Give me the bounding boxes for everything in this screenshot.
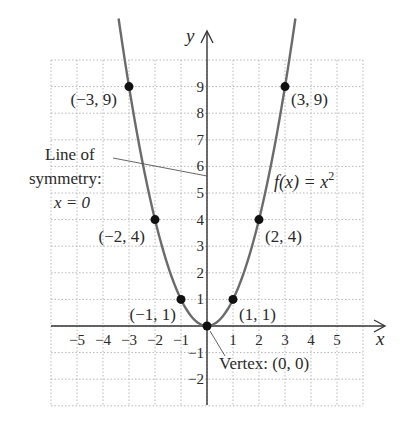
- symmetry-label-line2: symmetry:: [29, 169, 102, 188]
- point-label: (−2, 4): [99, 227, 145, 246]
- point-label: (2, 4): [265, 227, 302, 246]
- symmetry-label-line3: x = 0: [53, 193, 91, 212]
- data-point: [177, 295, 186, 304]
- y-axis-label: y: [184, 25, 195, 46]
- data-point: [151, 215, 160, 224]
- y-tick-label: 7: [197, 132, 205, 148]
- y-tick-label: 8: [197, 105, 205, 121]
- point-label: (−3, 9): [71, 90, 117, 109]
- data-point: [255, 215, 264, 224]
- y-tick-label: 2: [197, 265, 205, 281]
- x-tick-label: −2: [147, 332, 163, 348]
- data-point: [125, 82, 134, 91]
- data-point: [203, 322, 212, 331]
- vertex-label: Vertex: (0, 0): [219, 354, 309, 373]
- point-label: (−1, 1): [130, 305, 176, 324]
- x-tick-label: −1: [173, 332, 189, 348]
- data-point: [229, 295, 238, 304]
- y-tick-label: 3: [197, 238, 205, 254]
- point-labels: (−3, 9)(−2, 4)(−1, 1)(1, 1)(2, 4)(3, 9): [71, 90, 328, 325]
- point-label: (1, 1): [239, 305, 276, 324]
- x-tick-label: −3: [121, 332, 137, 348]
- function-label: f(x) = x2: [274, 169, 334, 193]
- y-tick-label: 6: [197, 158, 205, 174]
- x-tick-label: 4: [307, 332, 315, 348]
- x-tick-label: 3: [281, 332, 289, 348]
- parabola-chart: −5−4−3−2−112345987654321−1−2 (−3, 9)(−2,…: [0, 0, 405, 422]
- x-tick-label: 5: [333, 332, 341, 348]
- function-label-exponent: 2: [328, 169, 334, 183]
- y-tick-label: 5: [197, 185, 205, 201]
- x-tick-label: 2: [255, 332, 263, 348]
- function-label-base: f(x) = x: [274, 172, 328, 193]
- y-tick-label: −2: [188, 371, 204, 387]
- x-axis-label: x: [375, 328, 385, 349]
- x-tick-label: −4: [95, 332, 111, 348]
- symmetry-label-line1: Line of: [45, 145, 95, 164]
- y-tick-label: 4: [197, 212, 205, 228]
- data-point: [281, 82, 290, 91]
- point-label: (3, 9): [291, 90, 328, 109]
- y-tick-label: 1: [197, 291, 205, 307]
- symmetry-leader-line: [113, 158, 207, 176]
- y-tick-label: −1: [188, 345, 204, 361]
- x-tick-label: 1: [229, 332, 237, 348]
- y-tick-label: 9: [197, 79, 205, 95]
- x-tick-label: −5: [69, 332, 85, 348]
